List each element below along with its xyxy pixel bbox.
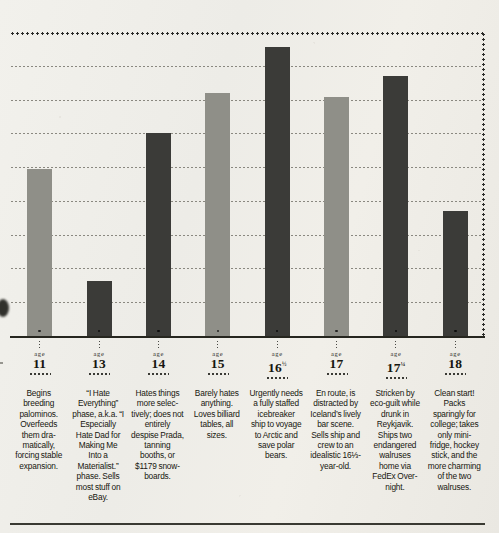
dot-rule-divider	[207, 373, 229, 375]
bar-slot	[10, 32, 69, 336]
x-axis-labels: age11age13age14age15age16½age17age17¼age…	[10, 340, 485, 378]
age-number-label: 14	[151, 357, 165, 371]
bar-age-11	[27, 169, 52, 336]
bar-slot	[248, 32, 307, 336]
bars-layer	[10, 32, 485, 336]
teen-age-bar-chart: age11age13age14age15age16½age17age17¼age…	[0, 0, 499, 533]
print-edge-tick-icon	[0, 362, 3, 364]
axis-tick-17-1/4: age17¼	[366, 340, 425, 379]
age-word-label: age	[390, 350, 401, 357]
caption-age-18: Clean start! Packs sparingly for college…	[428, 388, 481, 492]
caption-age-14: Hates things more selec­tively; does not…	[131, 388, 184, 482]
age-fraction-superscript: ½	[282, 361, 287, 367]
tick-leader	[455, 340, 456, 349]
age-number-label: 13	[92, 357, 106, 371]
caption-age-15: Barely hates anything. Loves billiard ta…	[190, 388, 243, 440]
bar-slot	[188, 32, 247, 336]
tick-leader	[395, 340, 396, 349]
age-number-label: 18	[448, 357, 462, 371]
caption-age-17¼: Stricken by eco-guilt while drunk in Rey…	[368, 388, 421, 492]
axis-tick-16-1/2: age16½	[248, 340, 307, 379]
tick-leader	[99, 340, 100, 349]
axis-tick-14: age14	[129, 340, 188, 375]
bar-age-16½	[265, 47, 290, 336]
age-number-label: 16½	[268, 357, 287, 375]
caption-age-13: “I Hate Everything” phase, a.k.a. “I Esp…	[71, 388, 124, 502]
dot-rule-divider	[147, 373, 169, 375]
age-number-label: 17	[330, 357, 344, 371]
tick-leader	[277, 340, 278, 349]
bar-slot	[307, 32, 366, 336]
bar-slot	[366, 32, 425, 336]
bar-age-17	[324, 97, 349, 336]
age-number-label: 17¼	[387, 357, 406, 375]
bar-slot	[69, 32, 128, 336]
bar-age-15	[205, 93, 230, 336]
axis-tick-13: age13	[69, 340, 128, 375]
bar-age-17¼	[383, 76, 408, 336]
axis-tick-18: age18	[426, 340, 485, 375]
caption-age-16½: Urgently needs a fully staffed icebreake…	[250, 388, 303, 461]
tick-leader	[217, 340, 218, 349]
tick-leader	[158, 340, 159, 349]
bottom-rule	[10, 523, 485, 525]
caption-age-11: Begins breeding palominos. Overfeeds the…	[12, 388, 65, 471]
age-number-label: 15	[211, 357, 225, 371]
tick-leader	[39, 340, 40, 349]
bar-age-18	[443, 211, 468, 336]
axis-tick-11: age11	[10, 340, 69, 375]
dot-rule-divider	[444, 373, 466, 375]
bar-slot	[129, 32, 188, 336]
axis-tick-17: age17	[307, 340, 366, 375]
age-word-label: age	[272, 350, 283, 357]
caption-age-17: En route, is distracted by Iceland’s liv…	[309, 388, 362, 471]
age-fraction-superscript: ¼	[401, 361, 406, 367]
dot-rule-divider	[385, 377, 407, 379]
dot-rule-divider	[266, 377, 288, 379]
bar-slot	[426, 32, 485, 336]
tick-leader	[336, 340, 337, 349]
dot-rule-divider	[29, 373, 51, 375]
x-axis-baseline	[10, 336, 485, 338]
age-number-label: 11	[33, 357, 46, 371]
caption-row: Begins breeding palominos. Overfeeds the…	[10, 388, 485, 518]
bar-age-14	[146, 133, 171, 336]
axis-tick-15: age15	[188, 340, 247, 375]
bar-age-13	[87, 281, 112, 336]
dot-rule-divider	[88, 373, 110, 375]
dot-rule-divider	[326, 373, 348, 375]
print-edge-mark-icon	[0, 299, 9, 317]
